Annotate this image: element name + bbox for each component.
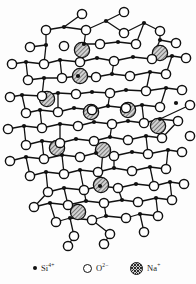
oxygen-ion xyxy=(39,59,48,68)
silicon-ion xyxy=(76,74,80,78)
glass-structure-figure: Si4+ O2− Na+ xyxy=(0,0,196,284)
oxygen-ion xyxy=(81,25,90,34)
oxygen-ion xyxy=(177,85,186,94)
oxygen-ion xyxy=(181,53,190,62)
oxygen-ion xyxy=(43,187,52,196)
oxygen-ion xyxy=(37,123,46,132)
silicon-ion xyxy=(134,182,138,186)
legend-item-sodium: Na+ xyxy=(130,259,160,277)
oxygen-ion xyxy=(155,26,164,35)
oxygen-ion xyxy=(99,198,108,207)
oxygen-ion xyxy=(105,229,114,238)
oxygen-ion xyxy=(59,169,68,178)
silicon-ion xyxy=(148,70,152,74)
oxygen-ion-layer xyxy=(3,7,194,250)
silicon-ion xyxy=(58,122,62,126)
silicon-ion xyxy=(104,214,108,218)
oxygen-ion xyxy=(99,239,108,248)
oxygen-ion xyxy=(93,167,102,176)
silicon-ion xyxy=(95,56,99,60)
oxygen-ion xyxy=(89,136,98,145)
silicon-ion xyxy=(20,93,24,97)
oxygen-ion xyxy=(79,185,88,194)
oxygen-ion xyxy=(131,39,140,48)
oxygen-ion xyxy=(161,164,170,173)
silicon-ion xyxy=(108,135,112,139)
legend-label-sodium: Na+ xyxy=(147,264,160,273)
silicon-ion xyxy=(170,54,174,58)
silicon-ion xyxy=(68,216,72,220)
silicon-ion xyxy=(166,148,170,152)
oxygen-ion xyxy=(51,217,60,226)
oxygen-ion xyxy=(91,72,100,81)
oxygen-ion xyxy=(21,140,30,149)
silicon-ion xyxy=(124,88,128,92)
oxygen-ion xyxy=(63,241,72,250)
silicon-ion xyxy=(154,196,158,200)
silicon-ion xyxy=(90,90,94,94)
oxygen-ion xyxy=(133,197,142,206)
legend: Si4+ O2− Na+ xyxy=(0,252,196,284)
silicon-ion xyxy=(44,43,48,47)
silicon-ion xyxy=(131,55,135,59)
oxygen-ion xyxy=(141,86,150,95)
oxygen-ion xyxy=(139,118,148,127)
silicon-ion xyxy=(94,151,98,155)
silicon-ion xyxy=(148,165,152,169)
silicon-ion xyxy=(142,21,146,25)
silicon-ion xyxy=(104,19,108,23)
silicon-ion xyxy=(98,184,102,188)
oxygen-ion xyxy=(121,103,130,112)
oxygen-ion xyxy=(107,119,116,128)
oxygen-ion xyxy=(39,154,48,163)
oxygen-ion xyxy=(29,202,38,211)
silicon-ion xyxy=(126,119,130,123)
oxygen-ion xyxy=(5,92,14,101)
oxygen-ion xyxy=(55,138,64,147)
oxygen-circle-icon xyxy=(83,264,92,273)
oxygen-ion xyxy=(185,100,194,109)
oxygen-ion xyxy=(127,166,136,175)
oxygen-ion xyxy=(25,171,34,180)
oxygen-ion xyxy=(57,73,66,82)
silicon-ion xyxy=(24,155,28,159)
silicon-ion xyxy=(138,212,142,216)
oxygen-ion xyxy=(105,88,114,97)
oxygen-ion xyxy=(7,59,16,68)
oxygen-ion xyxy=(155,102,164,111)
oxygen-ion xyxy=(37,91,46,100)
silicon-ion xyxy=(92,120,96,124)
oxygen-ion xyxy=(109,151,118,160)
silicon-ion xyxy=(78,168,82,172)
silicon-ion xyxy=(164,86,168,90)
oxygen-ion xyxy=(87,105,96,114)
oxygen-ion xyxy=(77,9,86,18)
silicate-network-diagram xyxy=(0,0,196,284)
oxygen-ion xyxy=(123,135,132,144)
silicon-ion xyxy=(72,106,76,110)
silicon-ion xyxy=(144,134,148,138)
oxygen-ion xyxy=(139,227,148,236)
legend-item-silicon: Si4+ xyxy=(33,259,54,277)
silicon-ion xyxy=(42,76,46,80)
oxygen-ion xyxy=(171,38,180,47)
oxygen-ion xyxy=(59,41,68,50)
silicon-ion xyxy=(84,199,88,203)
oxygen-ion xyxy=(75,152,84,161)
oxygen-ion xyxy=(147,54,156,63)
oxygen-ion xyxy=(161,69,170,78)
oxygen-ion xyxy=(177,147,186,156)
oxygen-ion xyxy=(41,25,50,34)
silicon-ion xyxy=(158,117,162,121)
oxygen-ion xyxy=(179,179,188,188)
silicon-ion xyxy=(112,166,116,170)
oxygen-ion xyxy=(119,7,128,16)
oxygen-ion xyxy=(95,39,104,48)
sodium-ion xyxy=(74,42,89,57)
oxygen-ion xyxy=(109,56,118,65)
oxygen-ion xyxy=(121,213,130,222)
silicon-ion xyxy=(82,42,86,46)
oxygen-ion xyxy=(71,89,80,98)
silicon-dot-icon xyxy=(33,266,37,270)
silicon-ion xyxy=(62,186,66,190)
